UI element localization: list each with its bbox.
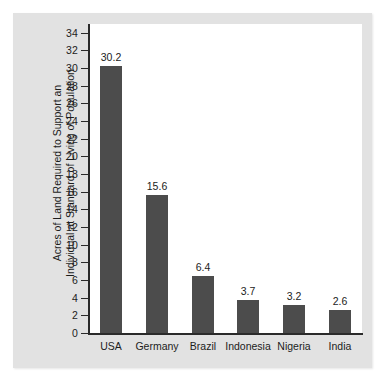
y-axis-tick [81,68,88,69]
y-axis-tick [81,174,88,175]
y-axis-tick [81,50,88,51]
y-axis-tick-label: 0 [38,328,78,339]
bar-value-label: 15.6 [134,181,180,192]
y-axis-title-line-1: Acres of Land Required to Support an [51,23,64,323]
bar [192,276,214,333]
bar-value-label: 6.4 [180,262,226,273]
bar [237,300,259,333]
x-axis-line [88,333,363,335]
bar [146,195,168,333]
x-axis-label: India [308,341,372,352]
y-axis-tick [81,156,88,157]
bar [283,305,305,333]
y-axis-tick [81,333,88,334]
y-axis-tick [81,280,88,281]
y-axis-tick [81,103,88,104]
y-axis-tick [81,262,88,263]
bar-value-label: 30.2 [88,52,134,63]
bar [329,310,351,333]
y-axis-tick [81,298,88,299]
y-axis-tick [81,209,88,210]
y-axis-tick [81,192,88,193]
y-axis-tick [81,86,88,87]
y-axis-tick [81,227,88,228]
y-axis-tick [81,245,88,246]
bar-value-label: 3.7 [225,286,271,297]
bar [100,66,122,333]
y-axis-tick [81,33,88,34]
y-axis-title: Acres of Land Required to Support an Ind… [51,23,77,323]
y-axis-tick [81,121,88,122]
bar-chart-figure: 0246810121416182022242628303234 Acres of… [0,0,385,381]
y-axis-title-line-2: Individual at Standard of Living of Popu… [64,23,77,323]
bar-value-label: 2.6 [317,296,363,307]
bar-value-label: 3.2 [271,291,317,302]
y-axis-tick [81,315,88,316]
y-axis-tick [81,139,88,140]
